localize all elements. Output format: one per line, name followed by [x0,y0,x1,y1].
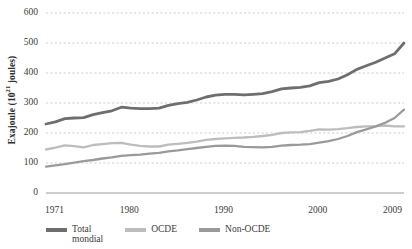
chart-legend: Total mondialOCDENon-OCDE [46,224,270,244]
legend-label: OCDE [151,224,177,234]
legend-item-ocde[interactable]: OCDE [125,224,177,234]
legend-swatch-icon [125,228,146,232]
legend-item-non-ocde[interactable]: Non-OCDE [199,224,270,234]
legend-swatch-icon [199,228,220,232]
legend-item-total-mondial[interactable]: Total mondial [46,224,103,244]
energy-consumption-line-chart: Exajoule (1021 joules) 60050040030020010… [0,0,412,249]
legend-swatch-icon [46,228,67,232]
legend-label: Total mondial [72,224,103,244]
legend-label: Non-OCDE [225,224,270,234]
plot-area [0,0,412,249]
series-line-total-mondial [46,43,404,124]
